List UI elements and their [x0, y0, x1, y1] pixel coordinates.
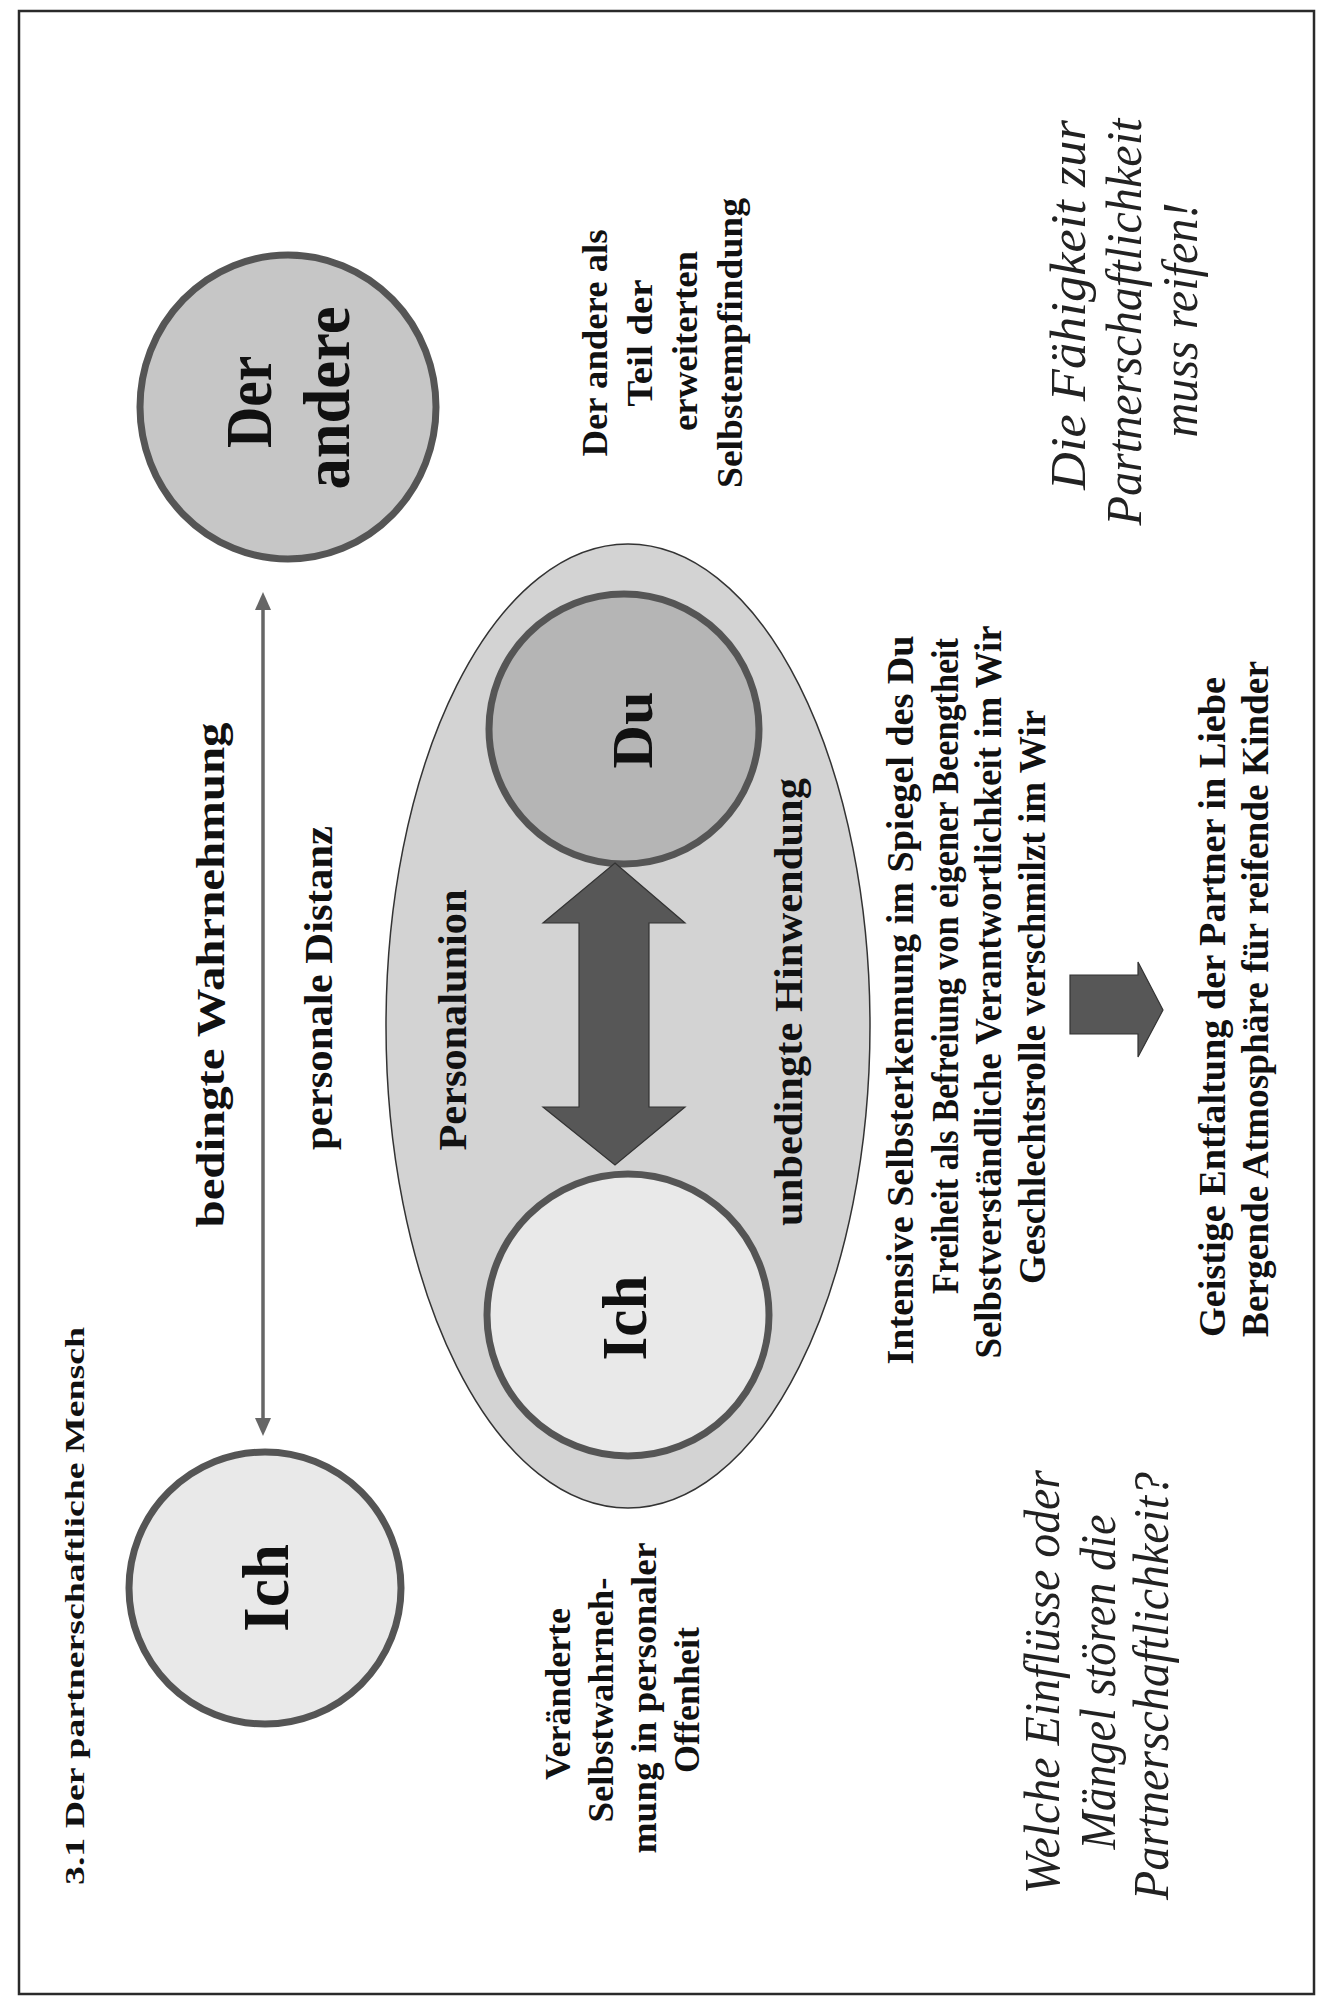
der-andere-circle — [140, 255, 436, 559]
ich-note-line: mung in personaler — [624, 1542, 664, 1853]
personalunion-group: Du Ich Personalunion unbedingte Hinwendu… — [386, 544, 870, 1508]
personalunion-label: Personalunion — [430, 890, 475, 1151]
der-andere-node: Der andere — [140, 255, 436, 559]
ich-note-line: Offenheit — [667, 1627, 707, 1773]
section-heading: 3.1 Der partnerschaftliche Mensch — [59, 1326, 90, 1885]
statements-block: Intensive Selbsterkennung im Spiegel des… — [879, 625, 1053, 1364]
ich-note-line: Selbstwahrneh- — [581, 1578, 621, 1823]
statement-line: Freiheit als Befreiung von eigener Beeng… — [924, 638, 966, 1294]
question-line: Mängel stören die — [1070, 1515, 1126, 1851]
arrowhead-up-icon — [255, 592, 271, 610]
connector-label-bottom: personale Distanz — [296, 826, 341, 1150]
der-andere-note-line: erweiterten — [665, 251, 705, 431]
ich-note: Veränderte Selbstwahrneh- mung in person… — [538, 1542, 707, 1853]
ich-note-line: Veränderte — [538, 1608, 578, 1780]
result-line: Bergende Atmosphäre für reifende Kinder — [1234, 661, 1276, 1337]
question-line: Welche Einflüsse oder — [1014, 1469, 1070, 1894]
arrowhead-down-icon — [255, 1418, 271, 1436]
der-andere-label-line1: Der — [212, 356, 285, 448]
question-line: Partnerschaftlichkeit? — [1123, 1472, 1179, 1901]
der-andere-label-line2: andere — [290, 307, 363, 490]
hinwendung-label: unbedingte Hinwendung — [766, 778, 811, 1226]
ich-label: Ich — [229, 1544, 302, 1632]
result-line: Geistige Entfaltung der Partner in Liebe — [1191, 677, 1233, 1337]
der-andere-note: Der andere als Teil der erweiterten Selb… — [575, 198, 750, 488]
der-andere-note-line: Selbstempfindung — [710, 198, 750, 488]
der-andere-note-line: Der andere als — [575, 230, 615, 457]
du-label: Du — [600, 692, 665, 769]
maturity-note-line: muss reifen! — [1152, 203, 1208, 438]
statement-line: Intensive Selbsterkennung im Spiegel des… — [879, 636, 921, 1365]
question-note: Welche Einflüsse oder Mängel stören die … — [1014, 1469, 1179, 1900]
results-block: Geistige Entfaltung der Partner in Liebe… — [1191, 661, 1276, 1337]
statement-line: Geschlechtsrolle verschmilzt im Wir — [1011, 710, 1053, 1284]
statement-line: Selbstverständliche Verantwortlichkeit i… — [967, 625, 1009, 1358]
maturity-note-line: Partnerschaftlichkeit — [1096, 117, 1152, 526]
inner-ich-label: Ich — [589, 1276, 660, 1361]
diagram-canvas: 3.1 Der partnerschaftliche Mensch Der an… — [0, 0, 1317, 2000]
result-arrow-icon — [1070, 962, 1163, 1057]
ich-node: Ich — [129, 1452, 401, 1724]
perception-connector — [255, 592, 271, 1436]
connector-label-top: bedingte Wahrnehmung — [188, 723, 233, 1228]
maturity-note-line: Die Fähigkeit zur — [1040, 119, 1096, 491]
maturity-note: Die Fähigkeit zur Partnerschaftlichkeit … — [1040, 117, 1208, 526]
der-andere-note-line: Teil der — [620, 279, 660, 406]
